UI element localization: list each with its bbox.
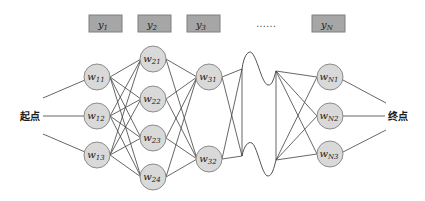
node-w32: w32 <box>196 146 222 172</box>
node-w12: w12 <box>84 103 110 129</box>
node-w24: w24 <box>140 164 166 190</box>
edges-layer1-to-layer2 <box>110 59 141 177</box>
output-box-y3: y3 <box>187 15 220 32</box>
ellipsis: …… <box>256 18 276 29</box>
node-w21: w21 <box>140 46 166 72</box>
output-box-y2: y2 <box>138 15 171 32</box>
edges-gap-to-layerN <box>276 71 317 160</box>
node-w11: w11 <box>84 64 110 90</box>
end-label: 终点 <box>388 110 408 122</box>
output-box-y1: y1 <box>89 15 122 32</box>
node-w23: w23 <box>140 125 166 151</box>
node-w22: w22 <box>140 86 166 112</box>
node-w31: w31 <box>196 64 222 90</box>
edges-layerN-to-end <box>343 80 386 152</box>
node-wN3: wN3 <box>317 141 343 167</box>
network-diagram: y1 y2 y3 …… yN w11 w12 w13 w21 w22 w23 w <box>0 0 425 201</box>
start-label: 起点 <box>19 110 40 122</box>
node-wN2: wN2 <box>317 103 343 129</box>
node-w13: w13 <box>84 142 110 168</box>
output-box-yN: yN <box>312 15 345 32</box>
node-wN1: wN1 <box>317 64 343 90</box>
edges-layer3-to-gap <box>222 69 242 159</box>
omitted-layers-break <box>242 52 276 176</box>
edges-layer2-to-layer3 <box>166 59 197 177</box>
edges-start-to-layer1 <box>43 80 85 152</box>
